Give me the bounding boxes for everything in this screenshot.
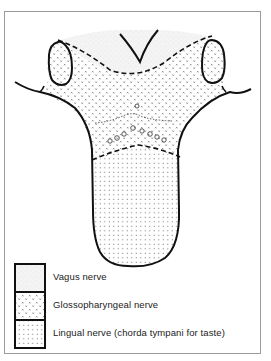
legend-item-lingual: Lingual nerve (chorda tympani for taste): [15, 320, 255, 348]
legend-label: Vagus nerve: [53, 271, 107, 282]
legend-label: Glossopharyngeal nerve: [53, 299, 158, 310]
left-tonsil-outline: [49, 42, 72, 85]
legend-item-glossopharyngeal: Glossopharyngeal nerve: [15, 292, 255, 320]
lingual-region: [92, 147, 179, 266]
legend-item-vagus: Vagus nerve: [15, 264, 255, 292]
legend-label: Lingual nerve (chorda tympani for taste): [53, 327, 225, 338]
right-tonsil-outline: [202, 40, 225, 83]
